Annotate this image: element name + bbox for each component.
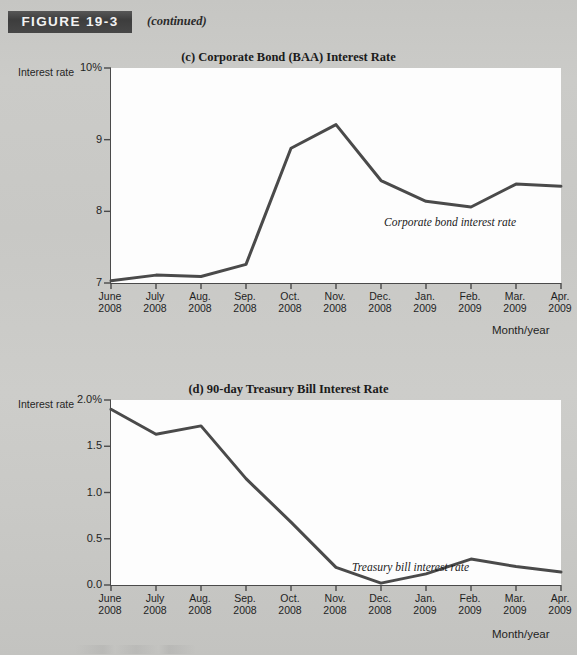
x-tick-month: Sep.: [234, 592, 256, 604]
y-axis-tick-label: 9: [58, 133, 102, 145]
x-tick-year: 2008: [368, 302, 391, 314]
x-tick-month: June: [99, 290, 122, 302]
x-tick-year: 2009: [503, 302, 526, 314]
x-tick-year: 2008: [368, 604, 391, 616]
x-tick-year: 2008: [278, 302, 301, 314]
x-tick-year: 2008: [278, 604, 301, 616]
chart-panel-corporate-bond: (c) Corporate Bond (BAA) Interest Rate I…: [0, 44, 577, 344]
x-axis-title-c: Month/year: [492, 324, 550, 336]
y-axis-tick-label: 1.5: [58, 439, 102, 451]
x-tick-year: 2008: [98, 604, 121, 616]
x-tick-month: Mar.: [505, 592, 525, 604]
x-tick-year: 2008: [323, 302, 346, 314]
x-tick-month: Aug.: [189, 592, 211, 604]
x-tick-year: 2008: [233, 302, 256, 314]
x-tick-year: 2009: [458, 604, 481, 616]
x-tick-month: June: [99, 592, 122, 604]
x-tick-year: 2009: [503, 604, 526, 616]
x-tick-month: Apr.: [551, 592, 570, 604]
x-tick-year: 2008: [188, 302, 211, 314]
line-chart-svg-c: [111, 68, 561, 283]
x-tick-month: July: [146, 592, 165, 604]
y-axis-tick-label: 8: [58, 204, 102, 216]
x-tick-month: Nov.: [325, 290, 346, 302]
x-tick-month: Dec.: [369, 290, 391, 302]
series-annotation-d: Treasury bill interest rate: [352, 561, 469, 573]
x-tick-year: 2008: [143, 604, 166, 616]
x-tick-year: 2008: [98, 302, 121, 314]
x-tick-year: 2009: [413, 604, 436, 616]
figure-header: FIGURE 19-3 (continued): [0, 0, 577, 40]
x-tick-year: 2008: [143, 302, 166, 314]
x-tick-month: Mar.: [505, 290, 525, 302]
x-axis-tick-label: Apr.2009: [532, 593, 577, 616]
x-axis-tick-label: Apr.2009: [532, 291, 577, 314]
x-tick-month: Aug.: [189, 290, 211, 302]
y-axis-tick-label: 0.5: [58, 532, 102, 544]
x-tick-year: 2008: [233, 604, 256, 616]
x-tick-year: 2009: [413, 302, 436, 314]
plot-area-c: [110, 68, 561, 284]
x-tick-month: Jan.: [415, 290, 435, 302]
data-series-line: [111, 125, 561, 281]
y-axis-tick-label: 10%: [58, 61, 102, 73]
x-tick-month: Sep.: [234, 290, 256, 302]
x-tick-month: Feb.: [459, 592, 480, 604]
plot-area-d: [110, 400, 561, 586]
x-tick-month: Jan.: [415, 592, 435, 604]
figure-continued-label: (continued): [147, 14, 207, 29]
x-tick-month: Oct.: [280, 290, 299, 302]
x-axis-title-d: Month/year: [492, 628, 550, 640]
x-tick-month: Dec.: [369, 592, 391, 604]
y-axis-tick-label: 1.0: [58, 486, 102, 498]
x-tick-year: 2009: [548, 604, 571, 616]
chart-panel-treasury-bill: (d) 90-day Treasury Bill Interest Rate I…: [0, 378, 577, 648]
x-tick-year: 2008: [188, 604, 211, 616]
x-tick-year: 2008: [323, 604, 346, 616]
page-bottom-artifact: [76, 645, 226, 654]
y-axis-tick-label: 2.0%: [58, 393, 102, 405]
x-tick-month: Feb.: [459, 290, 480, 302]
x-tick-year: 2009: [458, 302, 481, 314]
figure-number-badge: FIGURE 19-3: [8, 11, 132, 33]
x-tick-year: 2009: [548, 302, 571, 314]
y-axis-tick-label: 0.0: [58, 578, 102, 590]
x-tick-month: July: [146, 290, 165, 302]
x-tick-month: Nov.: [325, 592, 346, 604]
data-series-line: [111, 409, 561, 583]
line-chart-svg-d: [111, 400, 561, 585]
series-annotation-c: Corporate bond interest rate: [384, 216, 516, 228]
x-tick-month: Apr.: [551, 290, 570, 302]
y-axis-tick-label: 7: [58, 276, 102, 288]
x-tick-month: Oct.: [280, 592, 299, 604]
